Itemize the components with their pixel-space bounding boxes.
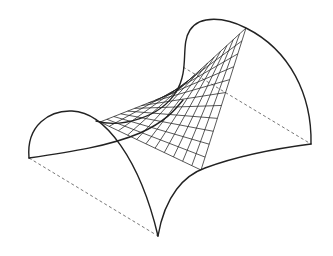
rule-line-v — [162, 54, 238, 98]
rule-line-v — [100, 122, 201, 170]
rule-line-u — [183, 40, 234, 162]
right-arch — [176, 19, 311, 144]
diagram-canvas — [0, 0, 333, 256]
rule-line-u — [192, 34, 240, 166]
base-edge-left-bottom — [29, 158, 158, 236]
base-edge-back-right — [183, 67, 311, 144]
rule-line-u — [137, 69, 202, 140]
rule-line-u — [201, 28, 246, 170]
left-arch — [29, 111, 158, 236]
saddle-surface-drawing — [0, 0, 333, 256]
ruled-grid — [100, 28, 246, 170]
front-right-edge — [158, 144, 311, 236]
rule-line-v — [148, 80, 229, 103]
